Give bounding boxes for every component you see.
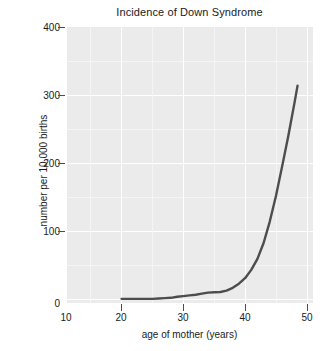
xtick-label-30: 30	[163, 312, 203, 323]
ytick-mark-300	[58, 95, 65, 96]
ytick-label-0: 0	[24, 298, 60, 309]
ytick-mark-400	[58, 27, 65, 28]
chart-title: Incidence of Down Syndrome	[66, 6, 313, 18]
ytick-mark-100	[58, 231, 65, 232]
xtick-label-10: 10	[46, 312, 86, 323]
plot-panel	[66, 27, 313, 303]
xtick-mark-30	[183, 304, 184, 311]
chart-figure: Incidence of Down Syndrome 0 100 200 300…	[0, 0, 327, 351]
xtick-label-40: 40	[225, 312, 265, 323]
xtick-mark-50	[307, 304, 308, 311]
data-curve	[66, 27, 313, 303]
y-axis-label: number per 10,000 births	[38, 56, 49, 286]
ytick-label-400: 400	[24, 22, 60, 33]
xtick-label-50: 50	[287, 312, 327, 323]
xtick-label-20: 20	[101, 312, 141, 323]
ytick-mark-200	[58, 163, 65, 164]
xtick-mark-20	[121, 304, 122, 311]
xtick-mark-40	[245, 304, 246, 311]
x-axis-label: age of mother (years)	[66, 329, 313, 340]
